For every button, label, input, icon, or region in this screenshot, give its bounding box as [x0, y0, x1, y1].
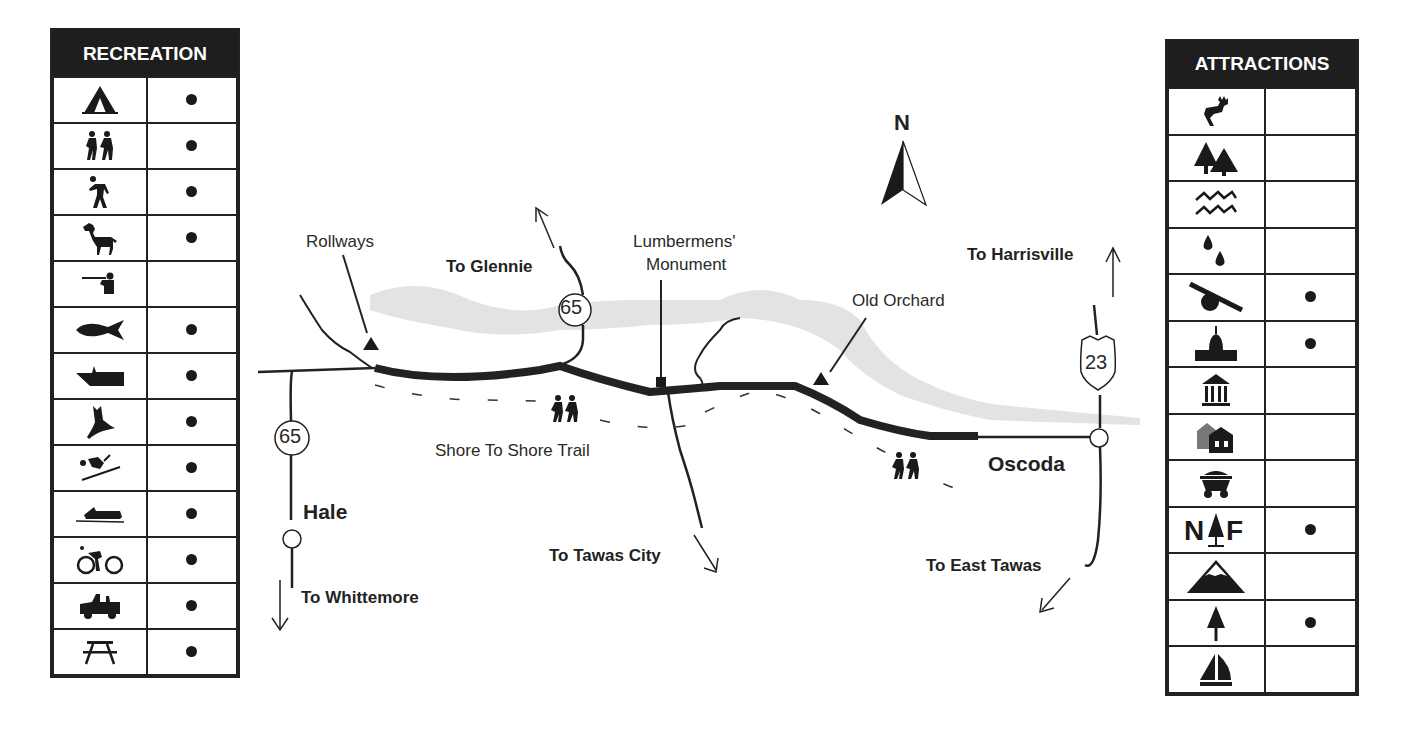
label-hale: Hale — [303, 500, 347, 524]
route-map: 65 65 23 Rollways To Glennie Lumbermens'… — [240, 80, 1160, 730]
arrow-glennie-icon — [536, 208, 554, 248]
available-dot — [186, 186, 197, 197]
picnic-table-icon — [81, 639, 119, 665]
legend-row — [1168, 553, 1356, 600]
legend-row — [53, 261, 237, 307]
water-waves-icon — [1194, 190, 1238, 218]
available-dot — [186, 416, 197, 427]
legend-row — [53, 399, 237, 445]
us23-shield-number: 23 — [1085, 351, 1107, 374]
hiking-icon — [85, 175, 115, 209]
label-to-whittemore: To Whittemore — [301, 588, 419, 608]
svg-text:N: N — [1184, 515, 1204, 546]
label-lumbermens: Lumbermens' — [633, 232, 735, 252]
deer-wildlife-icon — [1200, 94, 1232, 128]
recreation-legend: RECREATION — [50, 28, 240, 678]
legend-row — [1168, 135, 1356, 182]
road-west — [258, 368, 375, 372]
attractions-legend-title: ATTRACTIONS — [1167, 41, 1357, 87]
rollways-pointer — [343, 255, 367, 333]
label-to-east-tawas: To East Tawas — [926, 556, 1042, 576]
legend-row — [1168, 460, 1356, 507]
north-arrow-icon — [881, 141, 903, 205]
legend-row — [1168, 181, 1356, 228]
available-dot — [186, 646, 197, 657]
skiing-icon — [78, 453, 122, 483]
capitol-monument-icon — [1193, 326, 1239, 362]
available-dot — [1305, 524, 1316, 535]
available-dot — [186, 140, 197, 151]
horseback-riding-icon — [81, 221, 119, 255]
snowmobiling-icon — [74, 503, 126, 525]
rollways-campground-marker — [363, 337, 379, 350]
available-dot — [186, 462, 197, 473]
available-dot — [1305, 338, 1316, 349]
springs-drops-icon — [1200, 233, 1232, 269]
legend-row — [1168, 367, 1356, 414]
museum-icon — [1200, 372, 1232, 408]
available-dot — [186, 232, 197, 243]
old-orchard-campground-marker — [813, 372, 829, 385]
river-branch-middle — [695, 318, 740, 390]
m65-north-shield-number: 65 — [560, 296, 582, 319]
river-branch-nw — [300, 295, 372, 368]
legend-row — [1168, 274, 1356, 321]
hale-town-marker — [283, 530, 301, 548]
label-oscoda: Oscoda — [988, 452, 1065, 476]
north-label: N — [894, 110, 910, 136]
label-monument: Monument — [646, 255, 726, 275]
label-old-orchard: Old Orchard — [852, 291, 945, 311]
oscoda-town-marker — [1090, 429, 1108, 447]
mine-cart-icon — [1198, 467, 1234, 499]
legend-row — [1168, 646, 1356, 693]
legend-row — [1168, 600, 1356, 647]
road-m65-south — [291, 372, 292, 588]
legend-row: NF — [1168, 507, 1356, 554]
legend-row — [53, 169, 237, 215]
arrow-tawas-city-icon — [694, 535, 718, 572]
recreation-table — [52, 76, 238, 676]
label-shore-to-shore-trail: Shore To Shore Trail — [435, 441, 590, 461]
recreation-legend-title: RECREATION — [52, 30, 238, 76]
forest-trees-icon — [1192, 140, 1240, 176]
legend-row — [53, 445, 237, 491]
legend-row — [53, 77, 237, 123]
available-dot — [186, 508, 197, 519]
lumbermens-monument-marker — [656, 377, 666, 387]
arrow-whittemore-icon — [272, 580, 288, 630]
label-to-harrisville: To Harrisville — [967, 245, 1073, 265]
legend-row — [1168, 414, 1356, 461]
arrow-harrisville-icon — [1106, 248, 1120, 297]
boating-icon — [74, 364, 126, 388]
national-forest-icon: NF — [1184, 511, 1248, 549]
trail-hikers-icon-east — [892, 452, 919, 479]
available-dot — [186, 94, 197, 105]
available-dot — [1305, 617, 1316, 628]
label-to-tawas-city: To Tawas City — [549, 546, 661, 566]
available-dot — [186, 370, 197, 381]
camping-tent-icon — [80, 84, 120, 116]
available-dot — [1305, 291, 1316, 302]
legend-row — [1168, 321, 1356, 368]
available-dot — [186, 554, 197, 565]
group-hiking-icon — [81, 130, 119, 162]
available-dot — [186, 324, 197, 335]
tree-icon — [1205, 604, 1227, 642]
legend-row — [1168, 88, 1356, 135]
hunting-icon — [82, 272, 118, 296]
bicycling-icon — [76, 545, 124, 575]
mountain-icon — [1185, 558, 1247, 594]
available-dot — [186, 600, 197, 611]
attractions-legend: ATTRACTIONS NF — [1165, 39, 1359, 696]
legend-row — [53, 215, 237, 261]
attractions-table: NF — [1167, 87, 1357, 694]
trail-hikers-icon — [551, 395, 578, 422]
sailboat-icon — [1197, 650, 1235, 688]
legend-row — [53, 491, 237, 537]
arrow-east-tawas-icon — [1040, 578, 1070, 612]
wildlife-viewing-bird-icon — [83, 404, 117, 440]
legend-row — [53, 583, 237, 629]
off-road-vehicle-icon — [78, 592, 122, 620]
legend-row — [53, 629, 237, 675]
label-rollways: Rollways — [306, 232, 374, 252]
